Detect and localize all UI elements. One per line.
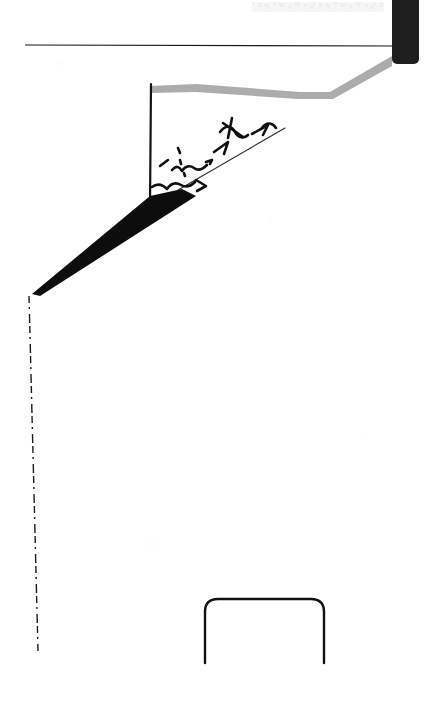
smudge-block	[252, 2, 384, 12]
vertical-ink-stroke	[150, 84, 151, 206]
page-background	[0, 0, 435, 707]
smudge-tick	[258, 3, 261, 7]
smudge-tick	[319, 3, 322, 7]
smudge-tick	[374, 2, 376, 5]
smudge-tick	[298, 3, 300, 7]
smudge-tick	[252, 2, 254, 5]
handwritten-stroke	[184, 173, 185, 176]
scanned-page: Scanned page fragment with line art and …	[0, 0, 435, 707]
smudge-tick	[267, 5, 269, 9]
smudge-tick	[313, 2, 315, 5]
smudge-tick	[380, 3, 383, 7]
smudge-tick	[310, 5, 314, 9]
smudge-tick	[282, 4, 284, 7]
smudge-tick	[334, 2, 337, 5]
smudge-tick	[343, 4, 345, 7]
handwritten-stroke	[180, 160, 181, 164]
smudge-tick	[328, 5, 330, 9]
smudge-tick	[359, 3, 361, 7]
smudge-tick	[349, 5, 352, 9]
scan-artwork-canvas	[0, 0, 435, 707]
dark-vertical-bar	[392, 0, 419, 64]
smudge-tick	[365, 4, 368, 7]
smudge-tick	[273, 2, 276, 5]
smudge-tick	[371, 5, 375, 9]
smudge-tick	[304, 4, 307, 7]
handwritten-stroke	[178, 148, 180, 153]
smudge-tick	[289, 5, 292, 9]
faint-smudge-text	[252, 2, 384, 12]
